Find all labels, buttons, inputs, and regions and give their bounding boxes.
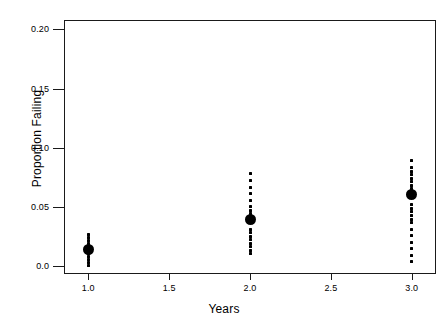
y-axis-tick: [53, 89, 64, 90]
data-point-marker: [249, 245, 252, 248]
x-axis-tick: [331, 274, 332, 280]
y-axis-tick: [53, 207, 64, 208]
y-axis-title: Proportion Failing: [31, 39, 44, 239]
y-axis-tick: [53, 266, 64, 267]
data-point-marker: [249, 186, 252, 189]
data-point-marker: [410, 159, 413, 162]
data-point-marker: [410, 228, 413, 231]
x-axis-tick: [88, 274, 89, 280]
y-axis-tick-label: 0.0: [5, 262, 49, 271]
data-point-marker: [410, 177, 413, 180]
data-point-marker: [410, 184, 413, 187]
data-point-marker: [249, 249, 252, 252]
x-axis-tick-label: 1.0: [65, 284, 111, 293]
x-axis-title: Years: [0, 303, 448, 316]
data-point-marker: [410, 170, 413, 173]
data-point-marker: [249, 252, 252, 255]
data-point-marker: [249, 235, 252, 238]
data-point-marker: [249, 179, 252, 182]
data-point-marker: [410, 221, 413, 224]
x-axis-tick: [250, 274, 251, 280]
data-point-marker: [249, 231, 252, 234]
data-point-marker: [410, 166, 413, 169]
mean-point-marker: [245, 214, 256, 225]
data-point-marker: [249, 192, 252, 195]
data-point-marker: [249, 199, 252, 202]
x-axis-tick-label: 1.5: [146, 284, 192, 293]
data-point-marker: [249, 205, 252, 208]
x-axis-tick-label: 2.5: [308, 284, 354, 293]
x-axis-tick: [169, 274, 170, 280]
y-axis-tick: [53, 148, 64, 149]
data-point-marker: [410, 254, 413, 257]
data-point-marker: [410, 247, 413, 250]
data-point-marker: [249, 228, 252, 231]
data-point-marker: [249, 172, 252, 175]
x-axis-tick: [412, 274, 413, 280]
y-axis-tick: [53, 29, 64, 30]
x-axis-tick-label: 3.0: [389, 284, 435, 293]
data-point-marker: [410, 214, 413, 217]
data-point-marker: [410, 180, 413, 183]
data-point-marker: [410, 207, 413, 210]
mean-point-marker: [83, 244, 94, 255]
data-point-marker: [87, 264, 90, 267]
x-axis-tick-label: 2.0: [227, 284, 273, 293]
data-point-marker: [249, 238, 252, 241]
data-point-marker: [410, 173, 413, 176]
data-point-marker: [410, 241, 413, 244]
scatter-plot-figure: 0.00.050.100.150.20 1.01.52.02.53.0 Year…: [0, 0, 448, 325]
y-axis-tick-label: 0.20: [5, 25, 49, 34]
data-point-marker: [410, 260, 413, 263]
data-point-marker: [410, 234, 413, 237]
